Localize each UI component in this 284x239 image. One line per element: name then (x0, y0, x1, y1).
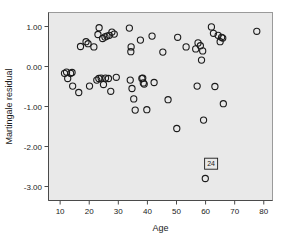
y-tick-label: 1.00 (26, 23, 42, 32)
x-axis-title: Age (152, 223, 168, 233)
x-tick-label: 40 (143, 207, 152, 216)
x-tick-label: 10 (56, 207, 65, 216)
x-tick-label: 20 (85, 207, 94, 216)
case-label-annotation: 24 (205, 158, 218, 169)
x-tick-label: 30 (114, 207, 123, 216)
x-tick-label: 80 (259, 207, 268, 216)
plot-canvas: 1.000.00-1.00-2.00-3.00Martingale residu… (0, 0, 284, 239)
y-tick-label: -1.00 (24, 103, 43, 112)
y-tick-label: -2.00 (24, 143, 43, 152)
scatter-plot-figure: 1.000.00-1.00-2.00-3.00Martingale residu… (0, 0, 284, 239)
x-tick-label: 60 (201, 207, 210, 216)
y-tick-label: 0.00 (26, 63, 42, 72)
y-tick-label: -3.00 (24, 183, 43, 192)
plot-area-background (49, 13, 273, 201)
x-tick-label: 70 (230, 207, 239, 216)
x-tick-label: 50 (172, 207, 181, 216)
y-axis-title: Martingale residual (4, 68, 14, 144)
case-label-value: 24 (207, 160, 215, 167)
y-axis: 1.000.00-1.00-2.00-3.00 (24, 13, 49, 201)
x-axis: 1020304050607080 (49, 201, 273, 216)
